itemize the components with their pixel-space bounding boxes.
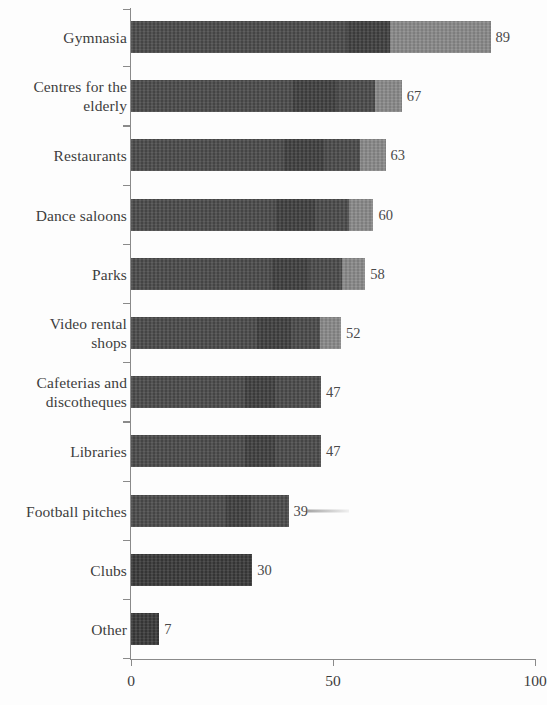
value-label: 47 [326, 384, 341, 401]
category-label: Centres for the elderly [0, 77, 127, 115]
bar-segment-light [342, 258, 365, 290]
value-label: 39 [294, 502, 309, 519]
bar-segment-mid [245, 376, 275, 408]
bar-segment-mid [257, 317, 291, 349]
category-label: Football pitches [0, 501, 127, 520]
bar [131, 21, 491, 53]
value-label: 30 [257, 561, 272, 578]
bar-row: Restaurants63 [0, 126, 547, 184]
bar-row: Parks58 [0, 245, 547, 303]
bar-segment-light [390, 21, 491, 53]
bar-segment-mid [276, 199, 315, 231]
category-label: Cafeterias and discotheques [0, 373, 127, 411]
plot-area: Gymnasia89Centres for the elderly67Resta… [0, 0, 547, 705]
bar-row: Centres for the elderly67 [0, 67, 547, 125]
bar-row: Other7 [0, 600, 547, 658]
x-axis-tick [535, 659, 536, 666]
bar [131, 613, 159, 645]
x-axis-tick [131, 659, 132, 666]
category-label: Other [0, 620, 127, 639]
category-label: Parks [0, 264, 127, 283]
x-axis-tick-label: 100 [523, 672, 546, 690]
value-label: 47 [326, 443, 341, 460]
bar [131, 139, 386, 171]
bar-segment-mid [293, 80, 336, 112]
bar [131, 495, 289, 527]
bar [131, 435, 321, 467]
bar [131, 80, 402, 112]
bar-segment-light [375, 80, 402, 112]
category-label: Clubs [0, 560, 127, 579]
bar-row: Gymnasia89 [0, 8, 547, 66]
bar [131, 554, 252, 586]
category-label: Gymnasia [0, 28, 127, 47]
x-axis-tick [333, 659, 334, 666]
bar-segment-mid [226, 495, 251, 527]
x-axis-tick-label: 50 [325, 672, 341, 690]
bar-segment-light [320, 317, 341, 349]
bar [131, 199, 373, 231]
bar-row: Football pitches39 [0, 482, 547, 540]
bar [131, 258, 365, 290]
y-axis-tick [123, 658, 130, 659]
bar-chart: Gymnasia89Centres for the elderly67Resta… [0, 0, 547, 705]
bar-row: Clubs30 [0, 541, 547, 599]
value-label: 58 [370, 265, 385, 282]
value-label: 67 [407, 88, 422, 105]
value-label: 7 [164, 621, 171, 638]
value-label: 60 [378, 206, 393, 223]
bar-segment-light [360, 139, 385, 171]
bar-row: Libraries47 [0, 422, 547, 480]
scan-line-artifact [307, 509, 349, 512]
value-label: 89 [496, 29, 511, 46]
category-label: Restaurants [0, 146, 127, 165]
category-label: Dance saloons [0, 205, 127, 224]
x-axis-tick-label: 0 [127, 672, 135, 690]
bar-row: Dance saloons60 [0, 186, 547, 244]
bar [131, 317, 341, 349]
bar-segment-mid [272, 258, 309, 290]
bar-segment-mid [245, 435, 275, 467]
bar [131, 376, 321, 408]
bar-segment-light [349, 199, 373, 231]
bar-row: Video rental shops52 [0, 304, 547, 362]
value-label: 63 [391, 147, 406, 164]
value-label: 52 [346, 325, 361, 342]
category-label: Libraries [0, 442, 127, 461]
bar-segment-mid [284, 139, 325, 171]
category-label: Video rental shops [0, 314, 127, 352]
bar-row: Cafeterias and discotheques47 [0, 363, 547, 421]
